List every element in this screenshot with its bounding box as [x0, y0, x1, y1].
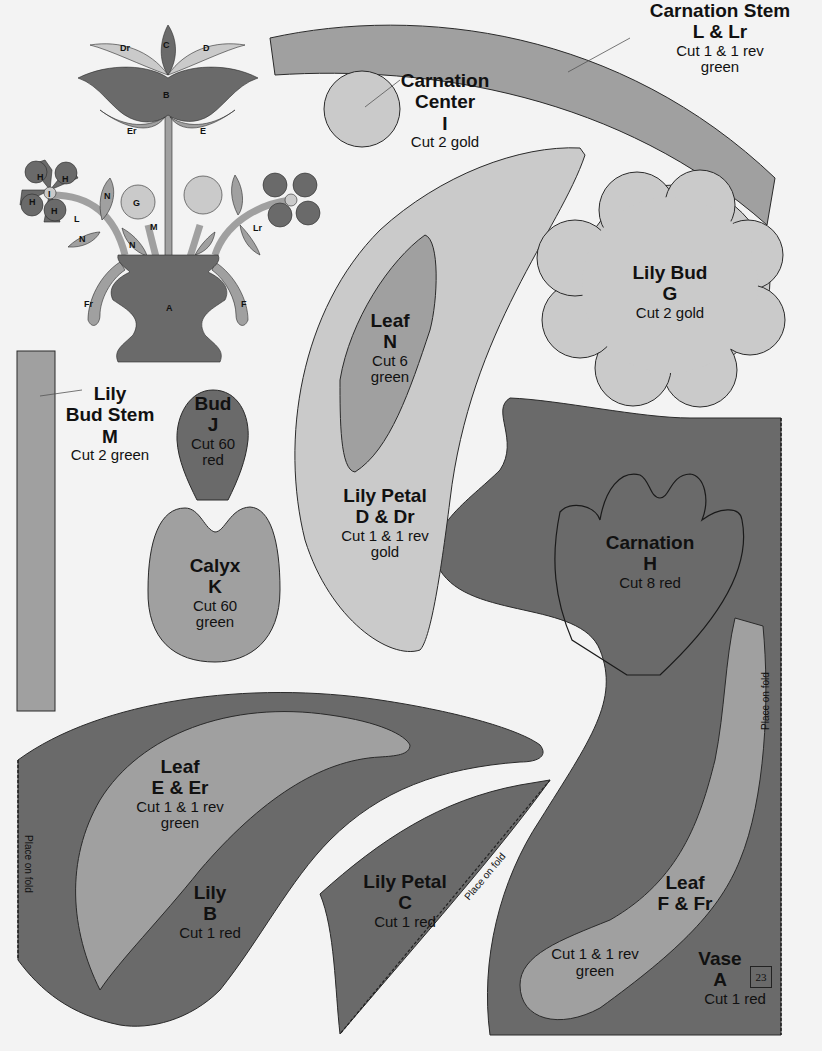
carnation-stem-cut: Cut 1 & 1 rev: [615, 43, 822, 60]
leaf-e-color: green: [120, 815, 240, 832]
carnation-cut: Cut 8 red: [590, 575, 710, 592]
carnation-stem-title: Carnation Stem: [615, 0, 822, 21]
lily-bud-cut: Cut 2 gold: [610, 305, 730, 322]
bud-cut: Cut 60: [183, 436, 243, 453]
bud-title: Bud: [183, 393, 243, 414]
preview-letter-l: L: [74, 214, 80, 224]
lily-letter: B: [155, 903, 265, 924]
leaf-f-color: green: [535, 963, 655, 980]
lily-cut: Cut 1 red: [155, 925, 265, 942]
calyx-color: green: [175, 614, 255, 631]
preview-letter-h3: H: [29, 197, 36, 207]
preview-letter-g: G: [133, 198, 140, 208]
label-carnation-stem: Carnation Stem L & Lr Cut 1 & 1 rev gree…: [615, 0, 822, 76]
leaf-e-cut: Cut 1 & 1 rev: [120, 799, 240, 816]
leaf-n-letter: N: [355, 331, 425, 352]
carnation-center-title2: Center: [390, 91, 500, 112]
lily-bud-stem-cut: Cut 2 green: [60, 447, 160, 464]
preview-letter-h4: H: [51, 206, 58, 216]
preview-letter-d: D: [203, 43, 210, 53]
carnation-letter: H: [590, 553, 710, 574]
preview-letter-b: B: [163, 90, 170, 100]
carnation-title: Carnation: [590, 532, 710, 553]
label-carnation-center: Carnation Center I Cut 2 gold: [390, 70, 500, 151]
lily-bud-stem-title2: Bud Stem: [60, 404, 160, 425]
label-bud-j: Bud J Cut 60 red: [183, 393, 243, 469]
carnation-center-shape: [324, 71, 400, 147]
page-number: 23: [750, 966, 772, 988]
leaf-e-letter: E & Er: [120, 777, 240, 798]
leaf-e-title: Leaf: [120, 756, 240, 777]
calyx-letter: K: [175, 576, 255, 597]
label-lily-bud-stem: Lily Bud Stem M Cut 2 green: [60, 383, 160, 464]
label-leaf-f-title: Leaf F & Fr: [645, 872, 725, 915]
lily-petal-c-cut: Cut 1 red: [340, 914, 470, 931]
label-calyx-k: Calyx K Cut 60 green: [175, 555, 255, 631]
label-carnation-h: Carnation H Cut 8 red: [590, 532, 710, 591]
lily-petal-d-letter: D & Dr: [315, 506, 455, 527]
vase-letter: A: [690, 969, 750, 990]
lily-petal-d-title: Lily Petal: [315, 485, 455, 506]
preview-letter-h1: H: [37, 172, 44, 182]
bud-letter: J: [183, 414, 243, 435]
vase-cut: Cut 1 red: [690, 991, 780, 1008]
lily-bud-title: Lily Bud: [610, 262, 730, 283]
bud-color: red: [183, 452, 243, 469]
leaf-f-letter: F & Fr: [645, 893, 725, 914]
preview-letter-i: I: [48, 189, 51, 199]
preview-letter-n2: N: [79, 234, 86, 244]
preview-letter-n3: N: [129, 240, 136, 250]
lily-bud-stem-title: Lily: [60, 383, 160, 404]
lily-petal-d-color: gold: [315, 544, 455, 561]
calyx-title: Calyx: [175, 555, 255, 576]
label-lily-bud: Lily Bud G Cut 2 gold: [610, 262, 730, 321]
leaf-f-cut: Cut 1 & 1 rev: [535, 946, 655, 963]
lily-title: Lily: [155, 882, 265, 903]
label-lily-petal-d: Lily Petal D & Dr Cut 1 & 1 rev gold: [315, 485, 455, 561]
preview-letter-c: C: [163, 40, 170, 50]
lily-bud-stem-shape: [17, 351, 55, 711]
leaf-f-title: Leaf: [645, 872, 725, 893]
lily-bud-stem-letter: M: [60, 426, 160, 447]
vase-title: Vase: [690, 948, 750, 969]
preview-letter-lr: Lr: [253, 223, 262, 233]
preview-letter-n1: N: [104, 191, 111, 201]
label-leaf-n: Leaf N Cut 6 green: [355, 310, 425, 386]
lily-petal-c-title: Lily Petal: [340, 871, 470, 892]
carnation-center-cut: Cut 2 gold: [390, 134, 500, 151]
label-lily-b: Lily B Cut 1 red: [155, 882, 265, 941]
label-leaf-f-cut: Cut 1 & 1 rev green: [535, 946, 655, 980]
lily-petal-d-cut: Cut 1 & 1 rev: [315, 528, 455, 545]
preview-letter-m: M: [150, 222, 158, 232]
block-preview: Dr C D B Er E H H H H I L N N N G M Lr F…: [20, 25, 320, 362]
label-lily-petal-c: Lily Petal C Cut 1 red: [340, 871, 470, 930]
preview-letter-er: Er: [127, 126, 137, 136]
preview-letter-dr: Dr: [120, 43, 130, 53]
preview-letter-h2: H: [62, 174, 69, 184]
fold-label-vase: Place on fold: [760, 672, 771, 730]
fold-label-lily: Place on fold: [23, 835, 34, 893]
leaf-n-title: Leaf: [355, 310, 425, 331]
label-leaf-e: Leaf E & Er Cut 1 & 1 rev green: [120, 756, 240, 832]
preview-letter-f: F: [241, 299, 247, 309]
preview-letter-e: E: [200, 126, 206, 136]
carnation-center-letter: I: [390, 113, 500, 134]
carnation-center-title: Carnation: [390, 70, 500, 91]
preview-letter-fr: Fr: [84, 299, 93, 309]
leaf-n-cut: Cut 6: [355, 353, 425, 370]
carnation-stem-letter: L & Lr: [615, 21, 822, 42]
leaf-n-color: green: [355, 369, 425, 386]
lily-petal-c-letter: C: [340, 892, 470, 913]
calyx-cut: Cut 60: [175, 598, 255, 615]
preview-letter-a: A: [166, 303, 173, 313]
carnation-stem-color: green: [615, 59, 822, 76]
lily-bud-letter: G: [610, 283, 730, 304]
